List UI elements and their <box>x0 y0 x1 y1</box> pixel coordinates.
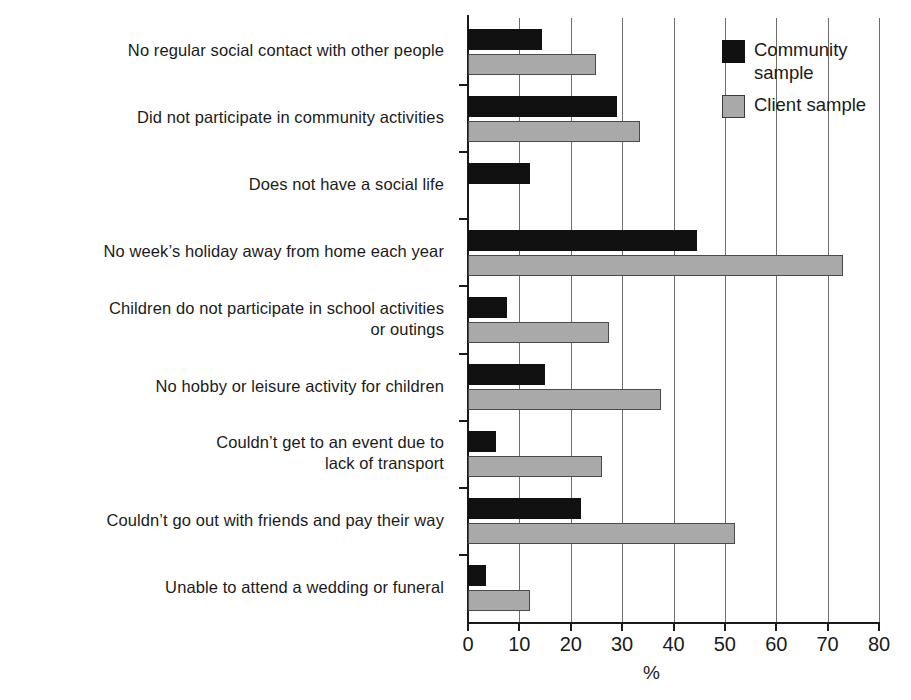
category-axis-labels: No regular social contact with other peo… <box>0 18 456 622</box>
bar-client <box>468 456 602 477</box>
bar-community <box>468 230 697 251</box>
legend-item-community: Community sample <box>722 38 902 84</box>
x-axis-tick <box>827 622 829 631</box>
bar-community <box>468 498 581 519</box>
x-axis-tick <box>518 622 520 631</box>
bar-chart: No regular social contact with other peo… <box>0 0 911 700</box>
bar-client <box>468 389 661 410</box>
y-axis-tick <box>459 353 468 355</box>
category-label: No week’s holiday away from home each ye… <box>4 241 444 262</box>
category-label: Couldn’t get to an event due to lack of … <box>4 432 444 474</box>
bar-community <box>468 297 507 318</box>
category-label: Unable to attend a wedding or funeral <box>4 577 444 598</box>
y-axis-tick <box>459 420 468 422</box>
chart-legend: Community sample Client sample <box>722 38 902 127</box>
bar-client <box>468 590 530 611</box>
category-label: Does not have a social life <box>4 174 444 195</box>
legend-label-community: Community sample <box>754 38 848 84</box>
legend-item-client: Client sample <box>722 93 902 118</box>
x-tick-label: 0 <box>462 632 473 656</box>
x-axis-tick <box>775 622 777 631</box>
x-axis-title-text: % <box>643 662 660 683</box>
category-label: No hobby or leisure activity for childre… <box>4 376 444 397</box>
bar-community <box>468 431 496 452</box>
x-axis-tick <box>878 622 880 631</box>
x-axis-tick <box>570 622 572 631</box>
x-axis-tick <box>673 622 675 631</box>
x-axis-title: % <box>0 662 911 684</box>
bar-community <box>468 29 542 50</box>
y-axis-tick <box>459 487 468 489</box>
bar-community <box>468 163 530 184</box>
x-tick-label: 50 <box>714 632 736 656</box>
category-label: Couldn’t go out with friends and pay the… <box>4 510 444 531</box>
bar-community <box>468 565 486 586</box>
category-label: No regular social contact with other peo… <box>4 40 444 61</box>
x-tick-label: 80 <box>868 632 890 656</box>
bar-client <box>468 121 640 142</box>
bar-community <box>468 364 545 385</box>
y-axis-tick <box>459 84 468 86</box>
x-tick-label: 40 <box>662 632 684 656</box>
x-axis-tick <box>467 622 469 631</box>
client-swatch-icon <box>722 95 745 118</box>
x-tick-label: 60 <box>765 632 787 656</box>
x-axis-tick <box>621 622 623 631</box>
x-tick-label: 10 <box>508 632 530 656</box>
bar-client <box>468 523 735 544</box>
y-axis-tick <box>459 285 468 287</box>
x-tick-label: 70 <box>817 632 839 656</box>
x-tick-label: 20 <box>560 632 582 656</box>
community-swatch-icon <box>722 40 745 63</box>
y-axis-tick <box>459 554 468 556</box>
x-tick-label: 30 <box>611 632 633 656</box>
category-label: Children do not participate in school ac… <box>4 298 444 340</box>
bar-client <box>468 322 609 343</box>
bar-client <box>468 255 843 276</box>
category-label: Did not participate in community activit… <box>4 107 444 128</box>
x-axis-tick <box>724 622 726 631</box>
y-axis-tick <box>459 218 468 220</box>
bar-client <box>468 54 596 75</box>
y-axis-tick <box>459 151 468 153</box>
x-axis-tick-labels: 01020304050607080 <box>468 632 879 658</box>
bar-community <box>468 96 617 117</box>
legend-label-client: Client sample <box>754 93 866 116</box>
